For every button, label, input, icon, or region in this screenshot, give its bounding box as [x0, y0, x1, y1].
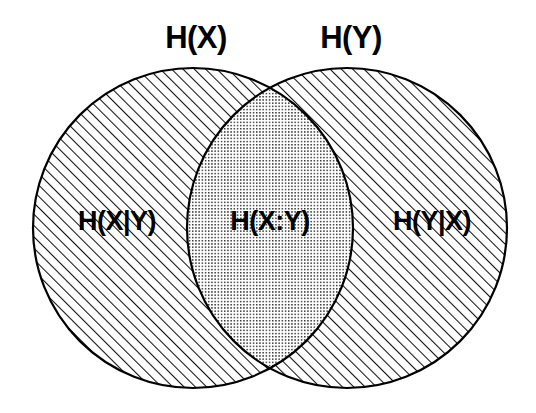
label-region-right-only: H(Y|X) — [393, 206, 471, 236]
venn-diagram: H(X) H(Y) H(X|Y) H(X:Y) H(Y|X) — [0, 0, 536, 413]
label-set-right: H(Y) — [320, 20, 382, 55]
venn-diagram-canvas: H(X) H(Y) H(X|Y) H(X:Y) H(Y|X) — [0, 0, 536, 413]
label-region-intersection: H(X:Y) — [230, 206, 310, 236]
label-set-left: H(X) — [165, 20, 227, 55]
label-region-left-only: H(X|Y) — [78, 206, 156, 236]
